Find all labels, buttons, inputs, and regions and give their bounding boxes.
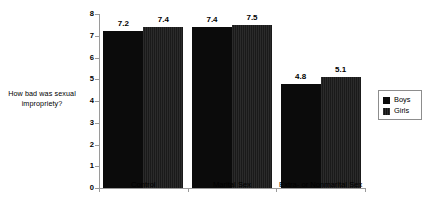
y-axis-label-line-1: How bad was sexual — [2, 89, 82, 99]
y-tick-label: 6 — [90, 53, 94, 62]
bar-boys: 7.2 — [103, 31, 143, 188]
bar-boys: 7.4 — [192, 27, 232, 188]
y-tick-mark — [95, 14, 99, 15]
plot-area: 012345678 7.27.47.47.54.85.1 — [99, 14, 365, 188]
chart-legend: Boys Girls — [378, 90, 422, 120]
y-tick-mark — [95, 166, 99, 167]
y-tick-mark — [95, 58, 99, 59]
y-tick-mark — [95, 36, 99, 37]
y-axis-label-line-2: impropriety? — [2, 99, 82, 109]
y-axis-label: How bad was sexual impropriety? — [2, 89, 82, 109]
y-tick-mark — [95, 101, 99, 102]
y-axis-line — [99, 14, 100, 188]
y-tick-label: 2 — [90, 140, 94, 149]
bar-value-label: 7.2 — [118, 19, 129, 28]
y-tick-label: 8 — [90, 9, 94, 18]
y-tick-label: 1 — [90, 161, 94, 170]
y-tick-label: 5 — [90, 74, 94, 83]
bar-value-label: 7.5 — [246, 13, 257, 22]
bar-value-label: 7.4 — [206, 15, 217, 24]
y-tick-label: 7 — [90, 31, 94, 40]
bar-value-label: 5.1 — [335, 65, 346, 74]
legend-swatch-girls-icon — [383, 108, 390, 115]
y-tick-mark — [95, 123, 99, 124]
bar-girls: 7.5 — [232, 25, 272, 188]
y-tick-label: 3 — [90, 118, 94, 127]
bar-value-label: 4.8 — [295, 72, 306, 81]
bar-chart: How bad was sexual impropriety? 01234567… — [0, 0, 437, 216]
bar-boys: 4.8 — [281, 84, 321, 188]
x-axis-category-label: Extra- or Nonmarital Sex — [261, 180, 381, 189]
legend-item-boys: Boys — [383, 96, 418, 104]
y-tick-mark — [95, 145, 99, 146]
legend-label-girls: Girls — [394, 107, 409, 115]
legend-label-boys: Boys — [394, 96, 410, 104]
legend-swatch-boys-icon — [383, 97, 390, 104]
bar-value-label: 7.4 — [158, 15, 169, 24]
y-tick-mark — [95, 79, 99, 80]
legend-item-girls: Girls — [383, 107, 418, 115]
bar-girls: 7.4 — [143, 27, 183, 188]
bar-girls: 5.1 — [321, 77, 361, 188]
y-tick-label: 4 — [90, 96, 94, 105]
